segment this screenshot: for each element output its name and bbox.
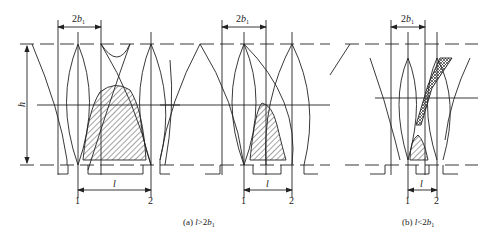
- caption-b: (b) l<2b1: [402, 217, 434, 228]
- point-2-b: 2: [434, 195, 439, 206]
- point-2-a2: 2: [289, 195, 294, 206]
- length-label-b: l: [420, 178, 423, 189]
- height-label: h: [16, 102, 27, 107]
- caption-a: (a) l>2b1: [183, 217, 215, 228]
- point-1-a: 1: [75, 195, 80, 206]
- width-label-a: 2b1: [72, 13, 85, 25]
- length-label-a: l: [113, 178, 116, 189]
- weld-bead: [83, 85, 146, 160]
- point-1-b: 1: [405, 195, 410, 206]
- weld-overlap-diagram: 2b1 h l 1 2 2b1 l 1 2 (a) l>2b1 2b1 l 1 …: [0, 0, 493, 242]
- length-label-a2: l: [266, 178, 269, 189]
- width-label-b: 2b1: [401, 13, 414, 25]
- point-1-a2: 1: [241, 195, 246, 206]
- width-label-a2: 2b1: [236, 13, 249, 25]
- overlap-region: [416, 58, 452, 125]
- panel-a: [20, 20, 180, 198]
- panel-b: [330, 20, 478, 198]
- point-2-a: 2: [148, 195, 153, 206]
- panel-a2: [160, 20, 330, 198]
